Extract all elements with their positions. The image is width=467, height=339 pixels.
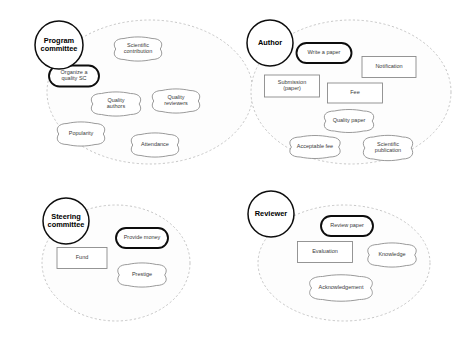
node-quality-reviewers[interactable]: Qualityreviewers xyxy=(152,89,199,113)
actor-program-committee[interactable]: Programcommittee xyxy=(35,21,83,69)
actor-boundary-author[interactable]: Write a paperNotificationSubmission(pape… xyxy=(247,20,451,164)
node-quality-authors[interactable]: Qualityauthors xyxy=(91,92,140,116)
goal-model-diagram: ScientificcontributionOrganize aquality … xyxy=(0,0,467,339)
node-label-write-a-paper: Write a paper xyxy=(308,49,341,55)
node-label-knowledge: Knowledge xyxy=(378,251,405,257)
node-label-evaluation: Evaluation xyxy=(312,248,338,254)
node-popularity[interactable]: Popularity xyxy=(57,122,104,146)
actor-label-steering-committee: Steeringcommittee xyxy=(48,212,85,229)
node-quality-paper[interactable]: Quality paper xyxy=(324,110,373,133)
node-label-quality-paper: Quality paper xyxy=(333,117,366,123)
diagram-canvas: ScientificcontributionOrganize aquality … xyxy=(0,0,467,339)
node-label-acknowledgement: Acknowledgement xyxy=(319,284,364,290)
node-knowledge[interactable]: Knowledge xyxy=(368,243,416,267)
actor-boundary-program-committee[interactable]: ScientificcontributionOrganize aquality … xyxy=(35,20,253,164)
node-label-fund: Fund xyxy=(76,254,89,260)
node-label-prestige: Prestige xyxy=(132,271,152,277)
node-acknowledgement[interactable]: Acknowledgement xyxy=(310,275,373,301)
node-label-popularity: Popularity xyxy=(69,130,94,136)
node-label-quality-authors: Qualityauthors xyxy=(107,97,126,109)
actor-steering-committee[interactable]: Steeringcommittee xyxy=(43,198,89,244)
node-acceptable-fee[interactable]: Acceptable fee xyxy=(290,136,340,159)
node-label-fee: Fee xyxy=(350,89,359,95)
node-fee[interactable]: Fee xyxy=(328,83,383,103)
node-label-acceptable-fee: Acceptable fee xyxy=(297,143,333,149)
node-label-provide-money: Provide money xyxy=(124,234,161,240)
actor-label-reviewer: Reviewer xyxy=(255,209,288,218)
node-label-scientific-contribution: Scientificcontribution xyxy=(124,42,152,54)
node-label-scientific-publication: Scientificpublication xyxy=(375,141,401,153)
node-label-review-paper: Review paper xyxy=(330,222,364,228)
actor-reviewer[interactable]: Reviewer xyxy=(248,191,294,237)
actor-label-author: Author xyxy=(258,38,282,47)
node-notification[interactable]: Notification xyxy=(362,57,416,78)
node-scientific-publication[interactable]: Scientificpublication xyxy=(363,135,412,160)
node-prestige[interactable]: Prestige xyxy=(118,263,166,287)
node-label-quality-reviewers: Qualityreviewers xyxy=(164,94,188,106)
node-evaluation[interactable]: Evaluation xyxy=(298,242,353,263)
node-fund[interactable]: Fund xyxy=(57,248,107,269)
node-label-organize-a-quality-sc: Organize aquality SC xyxy=(61,69,89,81)
actor-author[interactable]: Author xyxy=(247,20,293,66)
node-scientific-contribution[interactable]: Scientificcontribution xyxy=(114,37,161,61)
actor-boundary-reviewer[interactable]: Review paperEvaluationKnowledgeAcknowled… xyxy=(248,191,430,321)
node-attendance[interactable]: Attendance xyxy=(131,133,178,157)
node-review-paper[interactable]: Review paper xyxy=(321,216,373,236)
node-label-attendance: Attendance xyxy=(141,141,169,147)
actor-boundary-steering-committee[interactable]: Provide moneyFundPrestigeSteeringcommitt… xyxy=(42,198,190,321)
node-label-notification: Notification xyxy=(375,63,402,69)
node-provide-money[interactable]: Provide money xyxy=(116,228,168,248)
node-submission-paper[interactable]: Submission(paper) xyxy=(265,75,320,97)
node-write-a-paper[interactable]: Write a paper xyxy=(297,43,352,63)
actor-label-program-committee: Programcommittee xyxy=(41,36,78,53)
